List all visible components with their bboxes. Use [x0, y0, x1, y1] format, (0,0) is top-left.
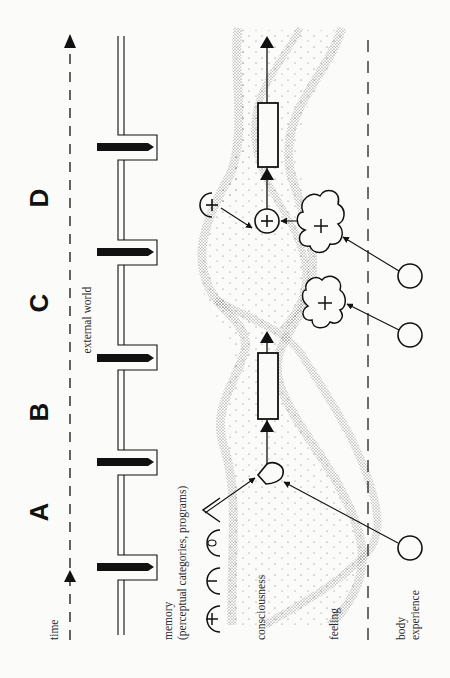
- event-arrow-icon: [97, 354, 154, 362]
- label-time: time: [48, 620, 60, 640]
- memory-plus-icon: [206, 606, 220, 632]
- memory-zero-icon: [207, 530, 220, 556]
- phase-label-a: A: [24, 502, 54, 521]
- memory-minus-icon: [207, 568, 220, 594]
- phase-label-b: B: [24, 403, 54, 422]
- time-axis: [64, 34, 76, 640]
- feeling-cloud-upper: [297, 190, 344, 252]
- feeling-cloud-lower: [303, 276, 346, 327]
- label-body-experience: experience: [409, 590, 422, 640]
- label-memory-sub: (perceptual categories, programs): [176, 486, 189, 640]
- processing-box-b: [258, 353, 278, 419]
- event-arrow-icon: [97, 143, 154, 151]
- memory-chevron-icon: [203, 498, 220, 522]
- label-external-world: external world: [81, 286, 93, 353]
- event-arrow-icon: [97, 563, 154, 571]
- external-world-track: [118, 36, 157, 635]
- processing-box-d: [258, 103, 278, 167]
- phase-label-c: C: [24, 293, 54, 312]
- label-consciousness: consciousness: [255, 574, 267, 640]
- label-body: body: [395, 617, 408, 640]
- phase-labels: A B C D: [24, 189, 54, 522]
- external-events: [97, 143, 154, 571]
- time-arrow-head-icon: [64, 34, 76, 48]
- consciousness-feeling-diagram: A B C D time external world memory (perc…: [0, 0, 450, 678]
- event-arrow-icon: [97, 248, 154, 256]
- phase-label-d: D: [24, 189, 54, 208]
- body-node-upper: [398, 264, 422, 288]
- body-node-lower: [398, 323, 422, 347]
- time-arrow-start-icon: [64, 570, 76, 582]
- event-arrow-icon: [97, 458, 154, 466]
- memory-symbols: [203, 498, 220, 632]
- body-node-main: [398, 536, 422, 560]
- label-feeling: feeling: [328, 608, 341, 640]
- label-memory: memory: [162, 601, 175, 640]
